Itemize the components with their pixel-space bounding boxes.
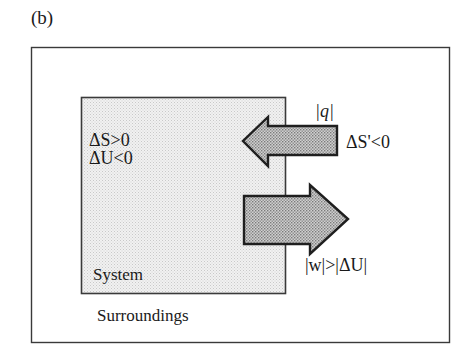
surroundings-label: Surroundings <box>97 307 189 324</box>
heat-label: |q| <box>315 102 334 120</box>
surroundings-entropy-label: ΔS'<0 <box>346 133 390 151</box>
system-entropy-label: ΔS>0 <box>89 131 130 149</box>
work-label: |w|>|ΔU| <box>305 256 367 274</box>
work-arrow <box>244 185 348 254</box>
system-energy-label: ΔU<0 <box>89 149 133 167</box>
diagram-canvas <box>0 0 466 357</box>
system-label: System <box>93 266 143 283</box>
